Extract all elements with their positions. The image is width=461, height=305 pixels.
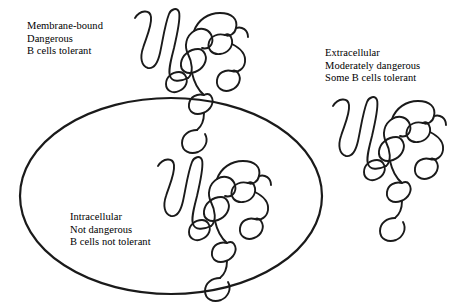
label-membrane-bound-line-3: B cells tolerant	[27, 45, 103, 58]
label-membrane-bound-line-2: Dangerous	[27, 33, 103, 46]
antigen-extracellular	[333, 97, 446, 241]
label-extracellular-line-2: Moderately dangerous	[325, 60, 420, 73]
label-membrane-bound: Membrane-bound Dangerous B cells toleran…	[27, 20, 103, 58]
cell-membrane	[20, 98, 322, 294]
label-extracellular: Extracellular Moderately dangerous Some …	[325, 47, 420, 85]
antigen-membrane-bound	[135, 9, 248, 153]
antigen-intracellular	[158, 157, 271, 301]
label-intracellular: Intracellular Not dangerous B cells not …	[70, 211, 151, 249]
label-intracellular-line-3: B cells not tolerant	[70, 236, 151, 249]
label-extracellular-line-1: Extracellular	[325, 47, 420, 60]
label-intracellular-line-2: Not dangerous	[70, 224, 151, 237]
label-extracellular-line-3: Some B cells tolerant	[325, 72, 420, 85]
label-membrane-bound-line-1: Membrane-bound	[27, 20, 103, 33]
label-intracellular-line-1: Intracellular	[70, 211, 151, 224]
figure-root: Membrane-bound Dangerous B cells toleran…	[0, 0, 461, 305]
